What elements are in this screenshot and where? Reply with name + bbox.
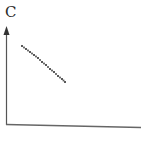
curve-dot	[37, 57, 39, 59]
curve-dot	[39, 59, 41, 61]
curve-dot	[57, 75, 59, 77]
curve-dot	[25, 48, 27, 50]
curve-dot	[53, 71, 55, 73]
curve-dot	[21, 45, 23, 47]
y-axis-arrow-icon	[4, 26, 10, 35]
curve-dot	[33, 54, 35, 56]
curve-dot	[49, 68, 51, 70]
curve-dot	[51, 70, 53, 72]
curve-dot	[41, 61, 43, 63]
curve-dot	[45, 64, 47, 66]
curve-dot	[35, 56, 37, 58]
curve-dot	[31, 53, 33, 55]
curve-dot	[55, 73, 57, 75]
dotted-curve	[21, 45, 66, 83]
curve-dot	[27, 50, 29, 52]
curve-dot	[43, 63, 45, 65]
curve-dot	[64, 81, 66, 83]
x-axis-line	[6, 125, 141, 128]
curve-dot	[59, 77, 61, 79]
curve-dot	[23, 47, 25, 49]
diagram-canvas: C	[0, 0, 141, 144]
curve-dot	[47, 66, 49, 68]
curve-dot	[29, 51, 31, 53]
plot-svg	[0, 0, 141, 144]
